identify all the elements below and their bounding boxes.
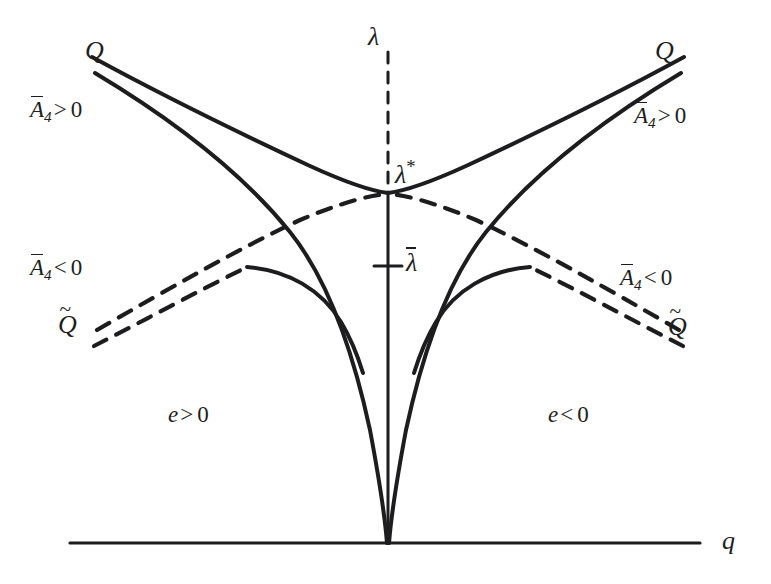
A4-pos-right-subscript: 4 [648,114,656,131]
e-pos-value: 0 [195,402,211,427]
curve-mid-solid-left [247,267,363,373]
curve-Q-inner-left [95,73,387,543]
lambda-star-label: λ* [395,158,416,188]
A4-pos-right-base: A [634,104,648,127]
Q-label-right: Q [655,38,674,64]
A4-neg-left-operator: < [52,255,69,280]
A4-pos-left-base: A [30,98,44,121]
lambda-star-base: λ [395,160,406,189]
e-pos-base: e [168,402,178,427]
e-neg-operator: < [558,402,575,427]
Qtilde-label-left: Q [58,312,77,338]
Qtilde-left-glyph: Q [58,312,77,338]
A4-pos-left-subscript: 4 [44,108,52,125]
q-axis-label: q [722,528,735,554]
curve-Q-inner-right [389,73,681,543]
lambda-bar-label: λ [406,250,417,276]
curve-Qtilde-upper-right [388,194,679,330]
A4-pos-right-operator: > [656,103,673,128]
A4-neg-right-operator: < [642,265,659,290]
A4-neg-left-value: 0 [69,255,85,280]
A4-neg-left-subscript: 4 [44,266,52,283]
Qtilde-label-right: Q [668,314,687,340]
lambda-axis-label: λ [368,24,379,50]
A4-pos-right-value: 0 [673,103,689,128]
Qtilde-right-glyph: Q [668,314,687,340]
A4-neg-right-subscript: 4 [634,276,642,293]
region-label-e-negative: e<0 [548,403,591,426]
A4-pos-left-value: 0 [69,97,85,122]
A4-negative-label-left: A4<0 [30,256,84,282]
e-neg-base: e [548,402,558,427]
A4-pos-left-operator: > [52,97,69,122]
curve-Qtilde-lower-left [94,267,247,346]
A4-positive-label-right: A4>0 [634,104,688,130]
curve-Q-outer-left [92,57,388,193]
e-pos-operator: > [178,402,195,427]
Q-label-left: Q [85,38,104,64]
A4-neg-left-base: A [30,256,44,279]
A4-positive-label-left: A4>0 [30,98,84,124]
figure-canvas: λ q λ* λ Q Q A4>0 A4>0 A4<0 A4<0 Q Q e>0… [0,0,771,584]
region-label-e-positive: e>0 [168,403,211,426]
curve-Qtilde-upper-left [97,194,388,330]
A4-negative-label-right: A4<0 [620,266,674,292]
lambda-bar-glyph: λ [406,250,417,276]
A4-neg-right-base: A [620,266,634,289]
e-neg-value: 0 [575,402,591,427]
A4-neg-right-value: 0 [659,265,675,290]
curve-mid-solid-right [414,267,530,373]
lambda-star-superscript: * [406,156,415,177]
